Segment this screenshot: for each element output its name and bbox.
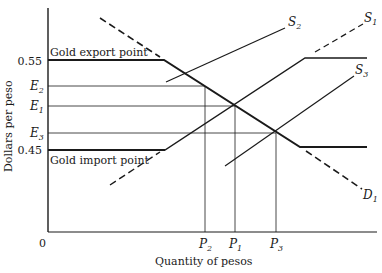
y-tick-055: 0.55 bbox=[18, 55, 43, 68]
y-tick-045: 0.45 bbox=[18, 144, 43, 157]
label-s1: S1 bbox=[364, 11, 377, 27]
supply-curve-s3 bbox=[225, 76, 354, 166]
y-tick-e1: E1 bbox=[29, 99, 44, 115]
x-tick-p3: P3 bbox=[269, 237, 283, 253]
x-axis-title: Quantity of pesos bbox=[155, 255, 253, 268]
gold-standard-diagram: S2 S1 S3 D1 Gold export point Gold impor… bbox=[0, 0, 382, 273]
origin-label: 0 bbox=[39, 237, 46, 250]
x-tick-p2: P2 bbox=[198, 237, 212, 253]
x-tick-p1: P1 bbox=[228, 237, 242, 253]
label-d1: D1 bbox=[362, 188, 378, 204]
supply-curve-s2 bbox=[166, 28, 285, 82]
gold-import-point-label: Gold import point bbox=[50, 154, 150, 167]
y-tick-e2: E2 bbox=[29, 79, 44, 95]
y-tick-e3: E3 bbox=[29, 126, 44, 142]
gold-export-point-label: Gold export point bbox=[50, 46, 148, 59]
y-axis-title: Dollars per peso bbox=[2, 80, 15, 172]
label-s3: S3 bbox=[355, 63, 368, 79]
label-s2: S2 bbox=[288, 15, 301, 31]
